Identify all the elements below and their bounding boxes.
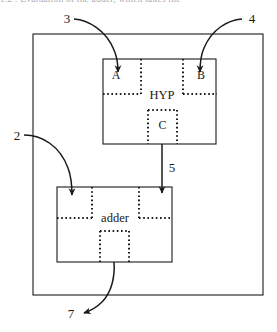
callout-3-label: 3 <box>64 11 71 26</box>
hyp-subcell-b-label: B <box>197 68 205 82</box>
callout-2-label: 2 <box>14 128 21 143</box>
figure-root: 1.2 . Evaluation of the adder, which tak… <box>0 0 277 332</box>
hyp-block-label: HYP <box>149 88 174 102</box>
callout-7-arrow <box>84 262 114 313</box>
callout-2-arrow <box>24 135 72 195</box>
callout-4-label: 4 <box>249 11 256 26</box>
hyp-subcell-a-label: A <box>112 68 121 82</box>
diagram-canvas: A B C HYP <box>0 0 277 332</box>
adder-block-label: adder <box>101 211 130 225</box>
callout-5-label: 5 <box>169 160 176 175</box>
callout-7-label: 7 <box>68 306 75 321</box>
hyp-subcell-c-label: C <box>158 118 166 132</box>
